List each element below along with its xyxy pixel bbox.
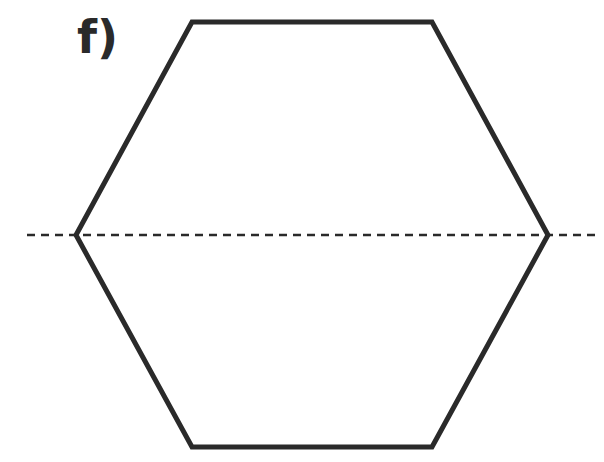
hexagon-diagram [0,0,604,462]
